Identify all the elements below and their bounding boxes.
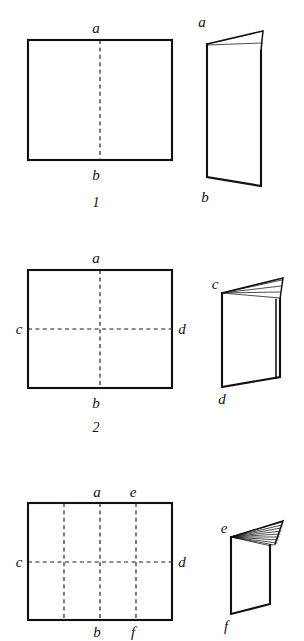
figure-3-folded-sheet xyxy=(231,521,283,614)
figure-2-folded-face xyxy=(222,293,280,387)
figure-3-folded-label-f: f xyxy=(224,618,230,634)
figure-2-label-c: c xyxy=(16,321,23,337)
figure-2-label-b: b xyxy=(92,395,100,411)
figure-3-label-b: b xyxy=(93,624,101,640)
figure-3-group: a e b f c d xyxy=(16,484,283,640)
figure-2-folded-sheet xyxy=(222,278,283,387)
figure-sheet: a b 1 a b xyxy=(0,0,304,641)
figure-1-group: a b 1 a b xyxy=(28,14,263,210)
figure-1-flat-sheet xyxy=(28,40,172,160)
figure-2-flat-sheet xyxy=(28,270,172,388)
figure-3-label-a: a xyxy=(93,484,101,500)
figure-3-label-e: e xyxy=(130,484,137,500)
figure-2-group: a b c d 2 xyxy=(16,250,283,435)
figure-3-flat-sheet xyxy=(28,503,172,620)
figure-1-folded-face xyxy=(207,44,261,186)
figure-3-folded-face xyxy=(231,537,270,614)
figure-1-label-b: b xyxy=(92,167,100,183)
figure-3-label-f: f xyxy=(131,624,137,640)
figure-1-folded-label-b: b xyxy=(201,189,209,205)
figure-2-label-d: d xyxy=(178,321,186,337)
figure-1-label-a: a xyxy=(92,20,100,36)
figure-2-folded-label-d: d xyxy=(218,391,226,407)
figure-3-folded-label-e: e xyxy=(221,520,228,536)
folding-diagram-canvas: a b 1 a b xyxy=(0,0,304,641)
figure-2-label-a: a xyxy=(92,250,100,266)
figure-1-number: 1 xyxy=(93,195,100,210)
figure-1-folded-sheet xyxy=(207,31,263,186)
figure-3-label-d: d xyxy=(178,554,186,570)
figure-2-number: 2 xyxy=(93,420,100,435)
figure-3-label-c: c xyxy=(16,554,23,570)
figure-1-folded-label-a: a xyxy=(198,14,206,30)
figure-2-folded-label-c: c xyxy=(212,276,219,292)
